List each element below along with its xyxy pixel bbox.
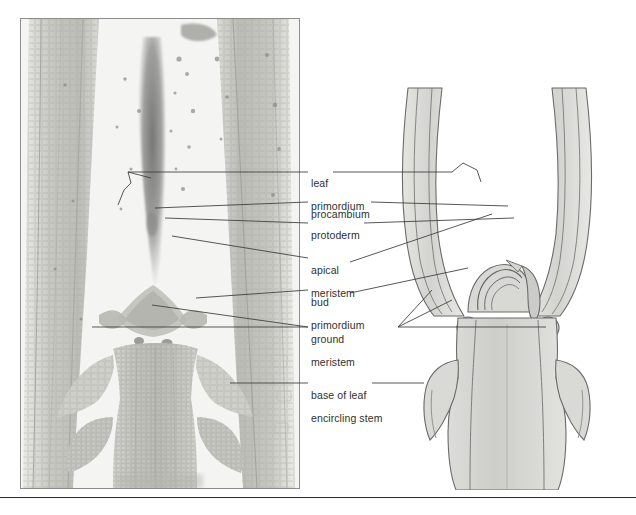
- label-base-of-leaf-line2: encircling stem: [311, 413, 383, 425]
- label-ground-meristem-line2: meristem: [311, 357, 355, 369]
- figure-root: leaf primordium procambium protoderm api…: [0, 0, 636, 515]
- label-ground-meristem-line1: ground: [311, 334, 355, 346]
- label-layer: leaf primordium procambium protoderm api…: [0, 0, 636, 515]
- label-protoderm: protoderm: [311, 218, 360, 253]
- label-base-of-leaf-line1: base of leaf: [311, 390, 383, 402]
- label-bud-primordium-line1: bud: [311, 297, 365, 309]
- label-base-of-leaf: base of leaf encircling stem: [311, 378, 383, 436]
- label-ground-meristem: ground meristem: [311, 322, 355, 380]
- label-protoderm-line1: protoderm: [311, 230, 360, 242]
- label-leaf-primordium-line1: leaf: [311, 178, 365, 190]
- label-apical-meristem-line1: apical: [311, 265, 355, 277]
- bottom-rule: [0, 497, 636, 498]
